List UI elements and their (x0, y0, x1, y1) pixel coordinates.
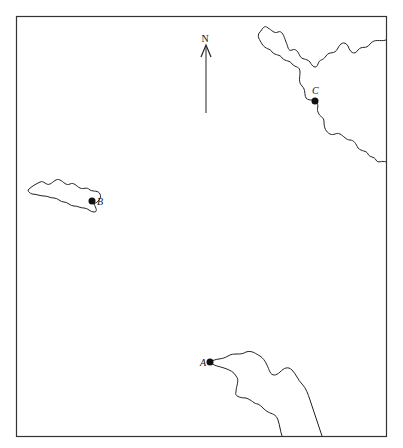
point-c-marker (312, 98, 319, 105)
map-diagram: N A B C (0, 0, 403, 448)
point-a-label: A (199, 357, 207, 368)
point-b: B (89, 196, 104, 207)
point-a-marker (207, 359, 214, 366)
point-b-marker (89, 198, 96, 205)
north-arrow: N (201, 33, 211, 113)
point-c: C (312, 85, 320, 105)
coastline-south (210, 351, 322, 436)
point-c-label: C (312, 85, 319, 96)
point-a: A (199, 357, 214, 368)
island-west (28, 179, 101, 212)
map-frame (17, 17, 387, 437)
point-b-label: B (97, 196, 103, 207)
coastline-northeast (258, 27, 386, 162)
north-label: N (202, 33, 209, 44)
